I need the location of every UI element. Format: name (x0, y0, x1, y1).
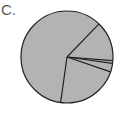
pie-chart (0, 0, 119, 114)
